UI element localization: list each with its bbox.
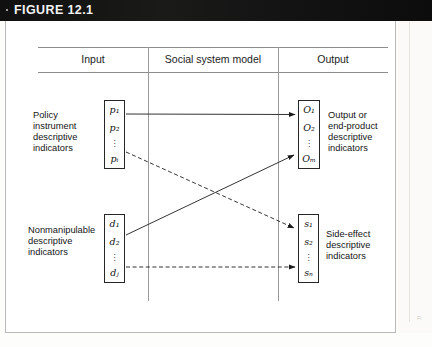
vertical-dots-s: ⋮ <box>305 255 313 261</box>
figure-header-bar: FIGURE 12.1 <box>0 0 432 21</box>
symbol-p1: p₁ <box>110 105 120 115</box>
figure-body-frame <box>5 21 396 333</box>
symbol-o1: O₁ <box>303 105 315 115</box>
symbol-o2: O₂ <box>303 123 315 133</box>
caption-policy-instrument: Policyinstrumentdescriptiveindicators <box>33 110 101 154</box>
symbol-om: Oₘ <box>302 154 316 164</box>
vertical-dots-p: ⋮ <box>111 141 119 147</box>
symbol-d1: d₁ <box>110 219 120 229</box>
caption-output-end-product: Output orend-productdescriptiveindicator… <box>328 110 402 154</box>
caption-nonmanipulable: Nonmanipulabledescriptiveindicators <box>28 225 102 258</box>
symbol-s1: s₁ <box>304 219 313 229</box>
column-header-output: Output <box>278 53 388 65</box>
column-divider-left <box>148 47 149 301</box>
box-nonmanipulable-indicators: d₁ d₂ ⋮ dⱼ <box>104 214 125 283</box>
column-header-input: Input <box>38 53 148 65</box>
symbol-p2: p₂ <box>110 123 120 133</box>
figure-title: FIGURE 12.1 <box>14 3 93 17</box>
column-header-social-system-model: Social system model <box>148 53 278 65</box>
symbol-s2: s₂ <box>304 237 313 247</box>
scan-page-edge <box>409 22 410 322</box>
symbol-dj: dⱼ <box>110 268 119 278</box>
box-output-indicators: O₁ O₂ ⋮ Oₘ <box>298 100 320 169</box>
header-rule-top <box>38 47 388 48</box>
caption-side-effect: Side-effectdescriptiveindicators <box>326 229 398 262</box>
vertical-dots-d: ⋮ <box>111 255 119 261</box>
box-policy-indicators: p₁ p₂ ⋮ pᵢ <box>104 100 125 169</box>
header-bullet-icon <box>6 9 8 11</box>
symbol-sn: sₙ <box>304 268 313 278</box>
scan-artifact-text: Fi <box>417 315 422 321</box>
figure-page: FIGURE 12.1 Fi Input Social system model… <box>0 0 432 347</box>
symbol-d2: d₂ <box>110 237 120 247</box>
column-divider-right <box>278 47 279 301</box>
vertical-dots-o: ⋮ <box>305 141 313 147</box>
box-side-effect-indicators: s₁ s₂ ⋮ sₙ <box>298 214 319 283</box>
scan-right-margin <box>398 21 432 333</box>
header-rule-bottom <box>38 72 388 73</box>
symbol-pi: pᵢ <box>111 154 119 164</box>
